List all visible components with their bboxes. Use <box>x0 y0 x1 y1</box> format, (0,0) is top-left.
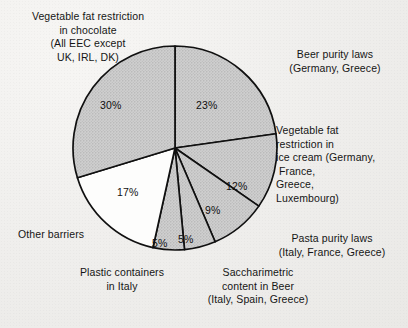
pie-slice-beer <box>175 46 276 148</box>
callout-label-beer: Beer purity laws (Germany, Greece) <box>262 48 408 75</box>
callout-label-other: Other barriers <box>18 228 122 242</box>
callout-label-icecream: Vegetable fat restriction in ice cream (… <box>276 124 408 205</box>
callout-label-pasta: Pasta purity laws (Italy, France, Greece… <box>256 232 408 259</box>
pie-chart <box>71 44 279 252</box>
pie-chart-figure: 30% 23% 12% 9% 5% 5% 17% Vegetable fat r… <box>0 0 408 328</box>
slice-value-sacch: 5% <box>178 233 194 245</box>
slice-value-pasta: 9% <box>205 204 221 216</box>
pie-chart-svg <box>71 44 279 252</box>
slice-value-icecream: 12% <box>226 180 248 192</box>
slice-value-other: 17% <box>117 186 139 198</box>
callout-label-plastic: Plastic containers in Italy <box>64 266 180 293</box>
callout-label-sacch: Saccharimetric content in Beer (Italy, S… <box>190 266 326 307</box>
slice-value-beer: 23% <box>196 99 218 111</box>
slice-value-chocolate: 30% <box>100 99 122 111</box>
pie-slice-group <box>73 46 277 250</box>
slice-value-plastic: 5% <box>152 237 168 249</box>
callout-label-chocolate: Vegetable fat restriction in chocolate (… <box>4 10 172 64</box>
